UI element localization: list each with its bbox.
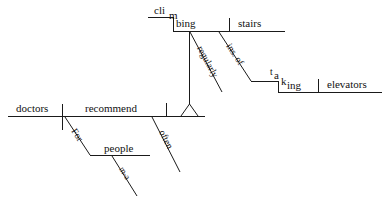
subject-label: doctors <box>16 102 48 114</box>
object-of-preposition-label: people <box>104 142 133 154</box>
gerund-taking-mid: a <box>274 69 279 81</box>
modifier-often-label: often <box>157 128 175 150</box>
modifier-ma-label: m-a <box>117 165 133 182</box>
gerund-pedestal-group <box>181 31 198 116</box>
gerund-taking-prefix: t <box>270 67 273 77</box>
modifier-ins-of-group: ins. of <box>219 32 251 81</box>
gerund-climbing-prefix: cli <box>154 4 165 16</box>
diagram-canvas: doctors recommend cli m <box>0 0 390 204</box>
stairs-object-label: stairs <box>238 17 261 29</box>
modifier-for-people-group: For people <box>65 117 150 155</box>
modifier-often-group: often <box>152 117 180 172</box>
sentence-diagram: doctors recommend cli m <box>0 0 390 204</box>
modifier-for-label: For <box>69 127 85 144</box>
gerund-taking-suffix: ing <box>287 79 302 91</box>
gerund-climbing-suffix: bing <box>176 17 196 29</box>
gerund-pedestal-triangle <box>181 104 198 116</box>
modifier-ins-of-label: ins. of <box>224 42 246 68</box>
modifier-ma-group: m-a <box>112 156 137 196</box>
elevators-object-label: elevators <box>327 78 367 90</box>
gerund-phrase-taking-group: t a k ing elevators <box>251 67 382 92</box>
modifier-regularly-group: regularly <box>190 32 222 92</box>
modifier-regularly-label: regularly <box>195 44 220 79</box>
main-clause-group: doctors recommend <box>8 102 205 130</box>
verb-label: recommend <box>85 102 137 114</box>
gerund-phrase-climbing-group: cli m bing stairs <box>148 4 285 31</box>
